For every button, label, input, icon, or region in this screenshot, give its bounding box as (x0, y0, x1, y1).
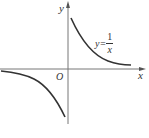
graph-canvas (0, 0, 149, 138)
y-axis-label: y (59, 3, 64, 14)
y-axis-arrow-icon (66, 1, 70, 8)
x-axis-label: x (138, 70, 143, 81)
curve-equation-label: y= 1 x (95, 32, 113, 55)
equation-fraction: 1 x (106, 32, 113, 55)
fraction-denominator: x (107, 45, 111, 55)
origin-label: O (56, 72, 63, 82)
equation-lhs: y= (95, 39, 106, 49)
fraction-numerator: 1 (107, 32, 112, 42)
